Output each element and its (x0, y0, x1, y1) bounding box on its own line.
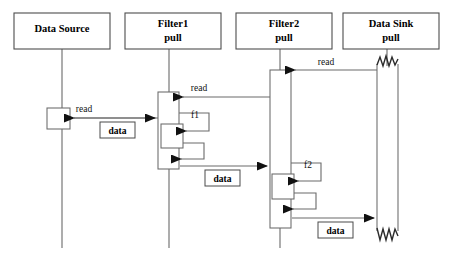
message-label-data-source-to-filter1: data (109, 126, 127, 136)
message-read-filter1-to-source[interactable]: read (74, 104, 158, 118)
self-call-f2[interactable]: f2 (291, 160, 321, 209)
header-label-data-source: Data Source (35, 23, 90, 34)
header-stereotype-filter1: pull (164, 32, 182, 43)
participant-header-filter1[interactable]: Filter1 pull (125, 13, 221, 49)
message-label-read-filter2-to-filter1: read (191, 83, 208, 93)
activations (47, 70, 294, 228)
message-read-sink-to-filter2[interactable]: read (295, 57, 377, 70)
message-data-filter1-to-filter2[interactable]: data (180, 166, 267, 186)
sequence-diagram-canvas: Data Source Filter1 pull Filter2 pull Da… (0, 0, 451, 255)
header-stereotype-filter2: pull (275, 32, 293, 43)
participant-header-data-sink[interactable]: Data Sink pull (343, 13, 439, 49)
activation-data-source (47, 108, 70, 129)
activation-filter1-f1-nested (161, 124, 183, 148)
participant-header-filter2[interactable]: Filter2 pull (236, 13, 332, 49)
message-label-data-filter2-to-sink: data (327, 226, 345, 236)
self-call-label-f1: f1 (191, 110, 199, 120)
header-label-filter2: Filter2 (269, 18, 299, 29)
sequence-diagram-svg: Data Source Filter1 pull Filter2 pull Da… (0, 0, 451, 255)
participant-header-data-source[interactable]: Data Source (14, 13, 110, 49)
activation-filter2-f2-nested (272, 174, 294, 199)
self-call-arrow-f2-return (293, 193, 316, 209)
header-label-filter1: Filter1 (158, 18, 188, 29)
self-call-arrow-f1-return (181, 143, 204, 159)
message-data-source-to-filter1[interactable]: data (74, 118, 155, 138)
message-label-read-sink-to-filter2: read (318, 57, 335, 67)
message-label-data-filter1-to-filter2: data (214, 174, 232, 184)
message-read-filter2-to-filter1[interactable]: read (183, 83, 270, 97)
activation-data-sink (377, 56, 398, 240)
torn-edge-bottom-icon (377, 228, 398, 240)
message-data-filter2-to-sink[interactable]: data (292, 218, 374, 238)
header-label-data-sink: Data Sink (369, 18, 414, 29)
self-call-label-f2: f2 (304, 160, 312, 170)
activation-filter2 (270, 70, 291, 228)
header-stereotype-data-sink: pull (382, 32, 400, 43)
message-label-read-filter1-to-source: read (76, 104, 93, 114)
